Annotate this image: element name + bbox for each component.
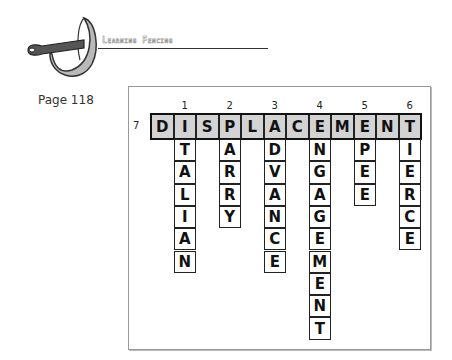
- crossword-cell-down: G: [309, 161, 332, 183]
- crossword-cell-down: E: [309, 273, 332, 295]
- clue-number-down: 1: [174, 100, 197, 111]
- crossword-cell-across: D: [151, 114, 174, 139]
- crossword-cell-down: M: [309, 251, 332, 273]
- crossword-cell-down: N: [309, 295, 332, 317]
- header-title: Learning Fencing: [102, 36, 173, 45]
- clue-number-across: 7: [125, 120, 148, 131]
- crossword-cell-across: E: [309, 114, 332, 139]
- crossword-cell-down: P: [354, 139, 377, 161]
- crossword-cell-down: C: [399, 206, 422, 228]
- crossword-cell-down: A: [309, 184, 332, 206]
- crossword-cell-down: E: [399, 228, 422, 250]
- crossword-cell-across: C: [286, 114, 309, 139]
- crossword-cell-down: E: [354, 161, 377, 183]
- crossword-cell-down: N: [264, 206, 287, 228]
- crossword-cell-down: A: [174, 228, 197, 250]
- crossword-cell-across: T: [399, 114, 422, 139]
- crossword-cell-down: V: [264, 161, 287, 183]
- crossword-cell-down: T: [174, 139, 197, 161]
- crossword-cell-down: R: [219, 184, 242, 206]
- crossword-cell-down: L: [174, 184, 197, 206]
- crossword-cell-down: D: [264, 139, 287, 161]
- crossword-cell-down: A: [219, 139, 242, 161]
- crossword-cell-down: I: [174, 206, 197, 228]
- sabre-guard-icon: [20, 14, 100, 84]
- crossword-cell-down: R: [219, 161, 242, 183]
- clue-number-down: 4: [309, 100, 332, 111]
- crossword-cell-across: I: [174, 114, 197, 139]
- crossword-cell-across: P: [219, 114, 242, 139]
- clue-number-down: 3: [264, 100, 287, 111]
- crossword-cell-across: S: [196, 114, 219, 139]
- crossword-cell-across: L: [241, 114, 264, 139]
- crossword-cell-down: T: [309, 317, 332, 339]
- crossword-cell-down: R: [399, 184, 422, 206]
- crossword-cell-across: E: [354, 114, 377, 139]
- crossword-cell-down: N: [309, 139, 332, 161]
- crossword-cell-down: Y: [219, 206, 242, 228]
- crossword-cell-down: E: [399, 161, 422, 183]
- crossword-cell-down: E: [264, 251, 287, 273]
- crossword-cell-down: E: [354, 184, 377, 206]
- crossword-cell-across: A: [264, 114, 287, 139]
- crossword-cell-down: C: [264, 228, 287, 250]
- crossword-cell-across: M: [331, 114, 354, 139]
- crossword-cell-down: A: [174, 161, 197, 183]
- clue-number-down: 5: [354, 100, 377, 111]
- crossword-cell-across: N: [376, 114, 399, 139]
- crossword-cell-down: E: [309, 228, 332, 250]
- page-number: Page 118: [38, 93, 94, 107]
- crossword-cell-down: I: [399, 139, 422, 161]
- clue-number-down: 6: [399, 100, 422, 111]
- header-rule: [98, 48, 268, 49]
- clue-number-down: 2: [219, 100, 242, 111]
- crossword-cell-down: A: [264, 184, 287, 206]
- crossword-cell-down: G: [309, 206, 332, 228]
- crossword-cell-down: N: [174, 251, 197, 273]
